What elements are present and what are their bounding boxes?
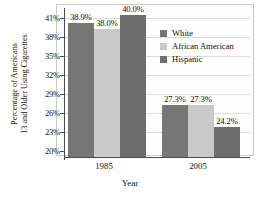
legend-label-white: White: [172, 29, 193, 38]
x-axis-line: [64, 157, 250, 158]
legend-label-hispanic: Hispanic: [172, 55, 203, 64]
y-tick-label-26: 26%: [26, 109, 60, 118]
legend-swatch-icon-white: [160, 30, 167, 37]
x-tick-label-2005: 2005: [160, 161, 236, 171]
bar-2005-white[interactable]: [162, 105, 188, 157]
x-axis-title: Year: [0, 178, 260, 188]
x-tick-label-1985: 1985: [66, 161, 142, 171]
y-tick-label-20: 20%: [26, 147, 60, 156]
y-tick-label-41: 41%: [26, 14, 60, 23]
y-tick-label-35: 35%: [26, 52, 60, 61]
bar-value-label-1985-hispanic: 40.0%: [114, 5, 152, 14]
bar-chart: Percentage of Americans 13 and Older Usi…: [0, 0, 260, 197]
legend-label-african-american: African American: [172, 42, 234, 51]
bar-2005-african-american[interactable]: [188, 105, 214, 157]
legend-swatch-icon-african-american: [160, 43, 167, 50]
x-tick-mark-left: [64, 157, 65, 160]
y-tick-label-29: 29%: [26, 90, 60, 99]
y-axis-tick-labels: 41% 38% 35% 32% 29% 26% 23% 20%: [18, 0, 60, 197]
legend-item-white[interactable]: White: [160, 27, 234, 40]
bar-1985-white[interactable]: [68, 23, 94, 157]
legend-item-hispanic[interactable]: Hispanic: [160, 53, 234, 66]
bar-2005-hispanic[interactable]: [214, 127, 240, 157]
y-tick-label-38: 38%: [26, 33, 60, 42]
bar-1985-african-american[interactable]: [94, 29, 120, 157]
bar-value-label-1985-african-american: 38.0%: [88, 19, 126, 28]
legend: White African American Hispanic: [160, 27, 234, 66]
y-tick-label-23: 23%: [26, 128, 60, 137]
legend-item-african-american[interactable]: African American: [160, 40, 234, 53]
bar-value-label-2005-african-american: 27.3%: [182, 95, 220, 104]
legend-swatch-icon-hispanic: [160, 56, 167, 63]
bar-value-label-2005-hispanic: 24.2%: [208, 117, 246, 126]
y-tick-label-32: 32%: [26, 71, 60, 80]
bar-1985-hispanic[interactable]: [120, 15, 146, 157]
